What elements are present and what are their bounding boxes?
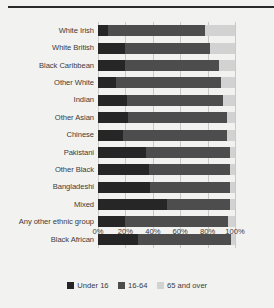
bar-track bbox=[98, 161, 235, 178]
bar-segment bbox=[98, 216, 125, 227]
legend-item[interactable]: 16-64 bbox=[118, 282, 148, 290]
category-label: Other White bbox=[0, 79, 98, 87]
bar-track bbox=[98, 92, 235, 109]
category-label: White British bbox=[0, 44, 98, 52]
bar-segment bbox=[98, 199, 167, 210]
bar-segment bbox=[210, 43, 235, 54]
bar-segment bbox=[230, 147, 235, 158]
bar-segment bbox=[125, 216, 228, 227]
bar-segment bbox=[98, 164, 149, 175]
category-label: Black African bbox=[0, 236, 98, 244]
category-label: White Irish bbox=[0, 27, 98, 35]
bar-segment bbox=[98, 182, 150, 193]
stacked-bar bbox=[98, 60, 235, 71]
bar-segment bbox=[230, 182, 235, 193]
stacked-bar bbox=[98, 147, 235, 158]
category-label: Black Caribbean bbox=[0, 62, 98, 70]
x-axis-tick-label: 20% bbox=[118, 228, 133, 236]
bar-track bbox=[98, 39, 235, 56]
bar-row: Pakistani bbox=[0, 144, 274, 161]
bar-row: Other Asian bbox=[0, 109, 274, 126]
bar-segment bbox=[125, 60, 218, 71]
x-axis-tick-label: 60% bbox=[173, 228, 188, 236]
bar-track bbox=[98, 179, 235, 196]
bar-segment bbox=[98, 60, 125, 71]
bar-row: Bangladeshi bbox=[0, 179, 274, 196]
chart-legend: Under 1616-6465 and over bbox=[0, 282, 274, 290]
bar-track bbox=[98, 109, 235, 126]
bar-rows: White IrishWhite BritishBlack CaribbeanO… bbox=[0, 22, 274, 248]
stacked-bar bbox=[98, 95, 235, 106]
bar-segment bbox=[146, 147, 230, 158]
bar-track bbox=[98, 196, 235, 213]
x-axis-tick-label: 80% bbox=[200, 228, 215, 236]
stacked-bar-chart: White IrishWhite BritishBlack CaribbeanO… bbox=[0, 0, 274, 308]
category-label: Bangladeshi bbox=[0, 183, 98, 191]
bar-segment bbox=[221, 77, 235, 88]
bar-row: Chinese bbox=[0, 126, 274, 143]
category-label: Any other ethnic group bbox=[0, 218, 98, 226]
category-label: Other Black bbox=[0, 166, 98, 174]
bar-segment bbox=[123, 130, 227, 141]
stacked-bar bbox=[98, 43, 235, 54]
category-label: Indian bbox=[0, 96, 98, 104]
bar-segment bbox=[98, 112, 128, 123]
bar-track bbox=[98, 126, 235, 143]
bar-segment bbox=[108, 25, 205, 36]
plot-area: White IrishWhite BritishBlack CaribbeanO… bbox=[0, 22, 274, 250]
bar-segment bbox=[98, 25, 108, 36]
bar-row: White British bbox=[0, 39, 274, 56]
bar-track bbox=[98, 22, 235, 39]
bar-row: Other Black bbox=[0, 161, 274, 178]
legend-item[interactable]: 65 and over bbox=[157, 282, 208, 290]
legend-item[interactable]: Under 16 bbox=[67, 282, 109, 290]
bar-row: Indian bbox=[0, 92, 274, 109]
category-label: Chinese bbox=[0, 131, 98, 139]
stacked-bar bbox=[98, 112, 235, 123]
bar-track bbox=[98, 144, 235, 161]
bar-segment bbox=[205, 25, 235, 36]
bar-segment bbox=[223, 95, 235, 106]
bar-segment bbox=[116, 77, 221, 88]
legend-label: 16-64 bbox=[128, 282, 147, 290]
legend-label: Under 16 bbox=[77, 282, 108, 290]
x-axis-tick-label: 40% bbox=[145, 228, 160, 236]
bar-segment bbox=[127, 95, 223, 106]
bar-segment bbox=[128, 112, 227, 123]
bar-segment bbox=[227, 130, 235, 141]
stacked-bar bbox=[98, 164, 235, 175]
stacked-bar bbox=[98, 77, 235, 88]
bar-row: Black Caribbean bbox=[0, 57, 274, 74]
stacked-bar bbox=[98, 199, 235, 210]
category-label: Other Asian bbox=[0, 114, 98, 122]
legend-swatch-icon bbox=[157, 282, 164, 289]
stacked-bar bbox=[98, 182, 235, 193]
stacked-bar bbox=[98, 216, 235, 227]
bar-segment bbox=[149, 164, 230, 175]
bar-row: White Irish bbox=[0, 22, 274, 39]
bar-segment bbox=[219, 60, 235, 71]
bar-row: Mixed bbox=[0, 196, 274, 213]
legend-swatch-icon bbox=[67, 282, 74, 289]
bar-row: Other White bbox=[0, 74, 274, 91]
legend-label: 65 and over bbox=[167, 282, 207, 290]
bar-segment bbox=[150, 182, 229, 193]
stacked-bar bbox=[98, 25, 235, 36]
bar-segment bbox=[98, 130, 123, 141]
bar-segment bbox=[230, 164, 235, 175]
bar-segment bbox=[230, 199, 235, 210]
bar-segment bbox=[98, 95, 127, 106]
legend-swatch-icon bbox=[118, 282, 125, 289]
x-axis: 0%20%40%60%80%100% bbox=[98, 228, 235, 242]
bar-segment bbox=[125, 43, 210, 54]
category-label: Mixed bbox=[0, 201, 98, 209]
bar-track bbox=[98, 74, 235, 91]
top-divider-rule bbox=[8, 6, 274, 8]
bar-segment bbox=[228, 216, 235, 227]
bar-segment bbox=[227, 112, 235, 123]
category-label: Pakistani bbox=[0, 149, 98, 157]
stacked-bar bbox=[98, 130, 235, 141]
bar-segment bbox=[98, 147, 146, 158]
bar-track bbox=[98, 57, 235, 74]
x-axis-tick-label: 100% bbox=[225, 228, 244, 236]
